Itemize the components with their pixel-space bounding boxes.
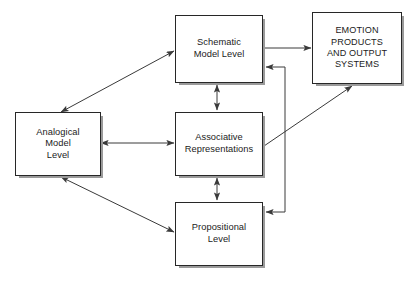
node-propositional-level[interactable]: Propositional Level <box>175 202 263 266</box>
edge-associative-emotion <box>264 86 352 146</box>
node-schematic-model-level[interactable]: Schematic Model Level <box>175 15 263 83</box>
edge-analogical-propositional <box>61 177 174 232</box>
edge-analogical-schematic <box>61 51 174 112</box>
node-propositional-level-label: Propositional Level <box>192 222 246 245</box>
node-schematic-model-level-label: Schematic Model Level <box>194 37 245 60</box>
diagram-canvas: Schematic Model Level EMOTION PRODUCTS A… <box>0 0 410 284</box>
node-associative-representations-label: Associative Representations <box>185 132 253 155</box>
edge-feedback-to-schematic <box>266 67 285 212</box>
node-analogical-model-level[interactable]: Analogical Model Level <box>15 112 101 176</box>
node-emotion-products-and-output-systems[interactable]: EMOTION PRODUCTS AND OUTPUT SYSTEMS <box>312 12 402 84</box>
node-associative-representations[interactable]: Associative Representations <box>175 112 263 176</box>
node-emotion-products-and-output-systems-label: EMOTION PRODUCTS AND OUTPUT SYSTEMS <box>327 25 387 71</box>
node-analogical-model-level-label: Analogical Model Level <box>36 127 79 162</box>
